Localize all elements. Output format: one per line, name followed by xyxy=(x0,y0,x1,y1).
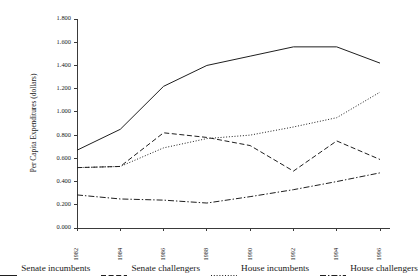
legend-item-house-challengers[interactable]: House challengers xyxy=(320,264,418,273)
legend-item-senate-incumbents[interactable]: Senate incumbents xyxy=(0,264,90,273)
legend-swatch-solid-icon xyxy=(0,265,17,272)
y-tick-label: 1.000 xyxy=(57,107,71,114)
x-tick-label: 1994 xyxy=(332,248,339,260)
x-tick-label: 1984 xyxy=(116,248,123,260)
y-tick-label: 1.800 xyxy=(57,14,71,21)
x-axis-ticks: 19821984198619881990199219941996 xyxy=(72,228,382,260)
legend-item-senate-challengers[interactable]: Senate challengers xyxy=(101,264,200,273)
x-tick-label: 1982 xyxy=(72,248,79,260)
legend-label: Senate incumbents xyxy=(21,264,90,273)
x-tick-label: 1992 xyxy=(289,248,296,260)
y-tick-label: 1.400 xyxy=(57,61,71,68)
x-tick-label: 1986 xyxy=(159,248,166,260)
legend-swatch-dashed-icon xyxy=(101,265,127,272)
legend-item-house-incumbents[interactable]: House incumbents xyxy=(211,264,309,273)
legend-label: House challengers xyxy=(350,264,418,273)
x-tick-label: 1996 xyxy=(375,248,382,260)
chart-legend: Senate incumbentsSenate challengersHouse… xyxy=(0,264,409,273)
legend-label: House incumbents xyxy=(241,264,309,273)
series-line-house-challengers xyxy=(77,173,380,203)
data-series-group xyxy=(77,47,380,203)
y-tick-label: 0.400 xyxy=(57,177,71,184)
x-tick-label: 1990 xyxy=(246,248,253,260)
legend-label: Senate challengers xyxy=(131,264,200,273)
series-line-house-incumbents xyxy=(77,92,380,167)
legend-swatch-dotted-icon xyxy=(211,265,237,272)
y-tick-label: 0.000 xyxy=(57,223,71,230)
y-tick-label: 0.800 xyxy=(57,131,71,138)
y-tick-label: 1.600 xyxy=(57,38,71,45)
series-line-senate-incumbents xyxy=(77,47,380,150)
y-axis-title: Per Capita Expenditures (dollars) xyxy=(29,73,38,172)
legend-swatch-dashdot-icon xyxy=(320,265,346,272)
y-tick-label: 1.200 xyxy=(57,84,71,91)
y-axis-ticks: 0.0000.2000.4000.6000.8001.0001.2001.400… xyxy=(57,14,77,230)
y-tick-label: 0.200 xyxy=(57,200,71,207)
x-tick-label: 1988 xyxy=(202,248,209,260)
y-axis-title-group: Per Capita Expenditures (dollars) xyxy=(29,73,38,172)
y-tick-label: 0.600 xyxy=(57,154,71,161)
